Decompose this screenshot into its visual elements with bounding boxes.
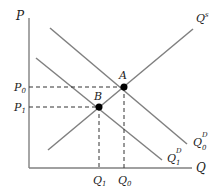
demand0-sub: 0 [202, 144, 207, 152]
demand1-label: Q [167, 152, 176, 165]
point-b [96, 104, 103, 111]
supply-demand-diagram: P Q A B Qs Q D 0 Q D 1 P0 P1 Q1 Q0 [0, 0, 218, 194]
p1-label: P1 [13, 101, 26, 115]
demand0-sup: D [201, 131, 208, 139]
q0-label: Q0 [118, 174, 132, 188]
supply-label: Qs [196, 11, 209, 25]
y-axis-label: P [15, 9, 25, 23]
point-b-label: B [93, 90, 102, 103]
demand1-sup: D [175, 147, 182, 155]
q1-label: Q1 [93, 174, 107, 188]
supply-curve [48, 29, 193, 150]
x-axis-label: Q [196, 161, 206, 175]
demand0-label: Q [193, 136, 202, 149]
demand1-sub: 1 [176, 159, 180, 167]
p0-label: P0 [13, 81, 26, 95]
point-a [121, 84, 128, 91]
point-a-label: A [118, 69, 127, 82]
